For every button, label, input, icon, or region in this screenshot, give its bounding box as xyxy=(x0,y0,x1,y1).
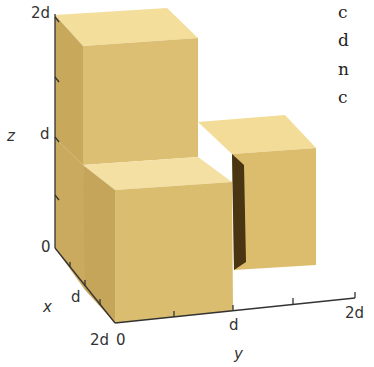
cropped-text-line-3: n xyxy=(338,61,349,78)
lower-cube-front xyxy=(115,182,233,323)
lower-cube-side xyxy=(83,165,115,323)
y-axis-label: y xyxy=(234,347,243,362)
cube-diagram: 2d d 0 z d x 2d 0 d 2d y c d n c xyxy=(0,0,374,367)
z-tick-d: d xyxy=(40,127,50,142)
y-tick-2d: 2d xyxy=(345,306,364,321)
cube-drawing xyxy=(0,0,374,367)
cropped-text-line-2: d xyxy=(338,32,349,49)
z-tick-2d: 2d xyxy=(31,6,50,21)
upper-cube-front xyxy=(83,38,198,165)
cropped-text-line-4: c xyxy=(338,89,348,106)
right-cube-top xyxy=(198,115,316,154)
y-tick-0: 0 xyxy=(116,333,126,348)
x-tick-d: d xyxy=(71,290,81,305)
x-axis-label: x xyxy=(43,300,52,315)
z-tick-0: 0 xyxy=(41,240,51,255)
y-tick-d: d xyxy=(229,318,239,333)
cropped-text-line-1: c xyxy=(338,4,348,21)
x-tick-2d: 2d xyxy=(90,333,109,348)
right-cube-shadow xyxy=(232,154,246,270)
z-axis-label: z xyxy=(7,129,15,144)
